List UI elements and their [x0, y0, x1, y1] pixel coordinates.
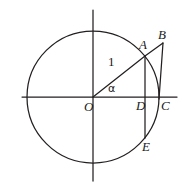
label-point-A: A: [139, 38, 147, 51]
radius-segment-OA: [93, 56, 145, 97]
tangent-segment-BC: [159, 43, 163, 99]
label-angle-alpha: α: [108, 83, 115, 94]
label-point-D: D: [136, 99, 145, 112]
geometry-figure: O D C A B E 1 α: [0, 0, 180, 190]
label-point-C: C: [161, 99, 170, 112]
label-point-O: O: [84, 100, 93, 113]
label-point-B: B: [158, 28, 166, 41]
segment-AB: [145, 43, 163, 56]
unit-circle-diagram-canvas: [0, 0, 180, 190]
label-point-E: E: [142, 140, 150, 153]
label-radius-length: 1: [108, 55, 115, 68]
